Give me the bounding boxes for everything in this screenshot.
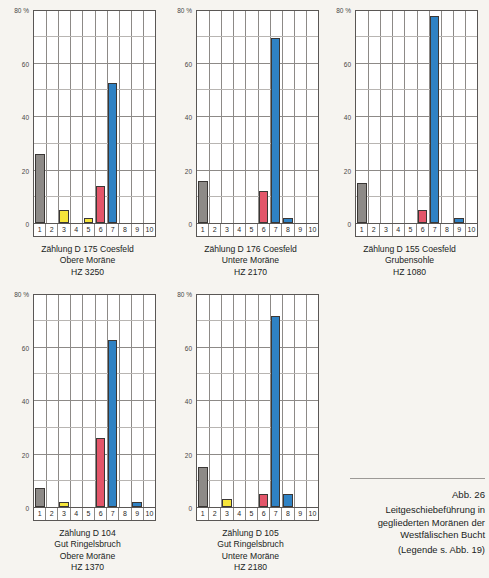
x-tick-label: 4 [234,224,246,236]
bar-1 [35,154,45,223]
x-tick-label: 4 [71,508,83,520]
chart-caption-line: HZ 1080 [328,267,489,278]
x-tick-label: 3 [380,224,392,236]
x-tick-label: 3 [58,224,70,236]
y-tick-label: 0 [25,221,29,228]
y-axis-labels: 80 %6040200 [328,6,353,224]
bar-8 [283,494,293,507]
chart-caption-line: HZ 2170 [169,267,332,278]
y-tick-label: 0 [347,221,351,228]
plot-frame [196,294,319,508]
x-tick-label: 9 [132,224,144,236]
x-tick-label: 8 [282,508,294,520]
plot-area: 80 %6040200 [33,6,156,224]
chart-caption: Zählung D 104Gut RingelsbruchObere Morän… [6,528,169,574]
x-tick-label: 7 [107,224,119,236]
y-tick-label: 80 % [14,7,29,14]
bar-series [197,295,318,507]
chart-caption-line: HZ 1370 [6,562,169,573]
x-tick-label: 8 [282,224,294,236]
chart-caption: Zählung D 175 CoesfeldObere MoräneHZ 325… [6,244,169,278]
x-tick-label: 7 [270,508,282,520]
x-tick-label: 8 [441,224,453,236]
chart-caption: Zählung D 155 CoesfeldGrubensohleHZ 1080 [328,244,489,278]
bar-series [197,11,318,223]
bar-series [356,11,477,223]
bar-1 [35,488,45,507]
bar-6 [96,186,106,223]
y-tick-label: 40 [185,398,192,405]
y-tick-label: 80 % [177,7,192,14]
y-tick-label: 20 [344,167,351,174]
figure-abb-26: 80 %604020012345678910Zählung D 175 Coes… [0,0,489,578]
y-tick-label: 60 [185,60,192,67]
x-tick-label: 6 [258,224,270,236]
chart-caption-line: Gut Ringelsbruch [169,539,332,550]
x-tick-label: 3 [221,224,233,236]
y-axis-labels: 80 %6040200 [169,6,194,224]
legend-reference: (Legende s. Abb. 19) [335,544,485,557]
y-tick-label: 20 [185,167,192,174]
y-tick-label: 0 [188,505,192,512]
x-tick-label: 9 [132,508,144,520]
plot-frame [33,294,156,508]
x-tick-label: 10 [144,224,155,236]
x-tick-label: 1 [197,224,209,236]
y-tick-label: 60 [22,344,29,351]
bar-5 [84,218,94,223]
y-tick-label: 80 % [14,291,29,298]
chart-caption-line: Grubensohle [328,255,489,266]
chart-panel-d176: 80 %604020012345678910Zählung D 176 Coes… [169,6,332,278]
bar-7 [108,340,118,507]
y-tick-label: 40 [22,114,29,121]
x-tick-label: 1 [197,508,209,520]
bar-9 [132,502,142,507]
x-tick-label: 6 [95,508,107,520]
bar-1 [198,181,208,223]
y-tick-label: 80 % [336,7,351,14]
y-axis-labels: 80 %6040200 [6,290,31,508]
x-tick-label: 5 [83,508,95,520]
bar-9 [454,218,464,223]
chart-caption-line: Zählung D 104 [6,528,169,539]
bar-1 [357,183,367,223]
x-tick-label: 4 [393,224,405,236]
bar-series [34,11,155,223]
x-axis-labels: 12345678910 [33,508,156,521]
bar-7 [271,38,281,224]
plot-frame [196,10,319,224]
y-tick-label: 80 % [177,291,192,298]
bar-8 [283,218,293,223]
y-tick-label: 20 [22,167,29,174]
y-tick-label: 0 [25,505,29,512]
x-axis-labels: 12345678910 [355,224,478,237]
bar-6 [259,494,269,507]
chart-panel-d104: 80 %604020012345678910Zählung D 104Gut R… [6,290,169,574]
x-tick-label: 5 [405,224,417,236]
chart-caption-line: Gut Ringelsbruch [6,539,169,550]
bar-3 [222,499,232,507]
bar-6 [259,191,269,223]
chart-caption-line: Untere Moräne [169,551,332,562]
plot-area: 80 %6040200 [33,290,156,508]
x-tick-label: 10 [307,224,318,236]
chart-caption-line: Zählung D 175 Coesfeld [6,244,169,255]
x-tick-label: 5 [246,508,258,520]
plot-frame [355,10,478,224]
x-tick-label: 1 [34,224,46,236]
chart-caption-line: Zählung D 176 Coesfeld [169,244,332,255]
x-tick-label: 8 [119,508,131,520]
y-tick-label: 60 [344,60,351,67]
y-tick-label: 20 [185,451,192,458]
x-tick-label: 1 [356,224,368,236]
chart-caption-line: HZ 2180 [169,562,332,573]
x-tick-label: 2 [209,508,221,520]
x-tick-label: 10 [466,224,477,236]
x-tick-label: 3 [221,508,233,520]
y-tick-label: 60 [185,344,192,351]
plot-frame [33,10,156,224]
y-tick-label: 40 [185,114,192,121]
y-tick-label: 20 [22,451,29,458]
x-axis-labels: 12345678910 [33,224,156,237]
chart-caption-line: Obere Moräne [6,551,169,562]
